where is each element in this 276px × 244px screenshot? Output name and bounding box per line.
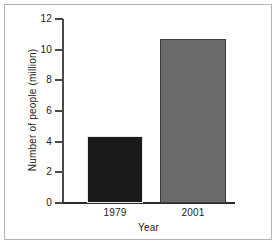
y-axis-title: Number of people (million) — [27, 30, 39, 190]
y-tick-mark-2 — [55, 171, 63, 173]
x-axis-title: Year — [62, 222, 235, 234]
x-tick-label-2001: 2001 — [160, 207, 226, 219]
bar-1979 — [87, 136, 143, 204]
plot-area: 0 2 4 6 8 10 12 1979 2001 Year Number of… — [0, 0, 276, 244]
y-tick-mark-12 — [55, 18, 63, 20]
y-tick-label-12: 12 — [12, 14, 52, 24]
x-tick-label-1979: 1979 — [87, 207, 143, 219]
bar-2001 — [160, 39, 226, 203]
y-tick-mark-6 — [55, 110, 63, 112]
y-tick-mark-8 — [55, 79, 63, 81]
y-tick-mark-4 — [55, 141, 63, 143]
y-tick-label-0: 0 — [12, 198, 52, 208]
bar-chart-figure: 0 2 4 6 8 10 12 1979 2001 Year Number of… — [0, 0, 276, 244]
y-tick-mark-10 — [55, 49, 63, 51]
y-tick-mark-0 — [55, 202, 63, 204]
